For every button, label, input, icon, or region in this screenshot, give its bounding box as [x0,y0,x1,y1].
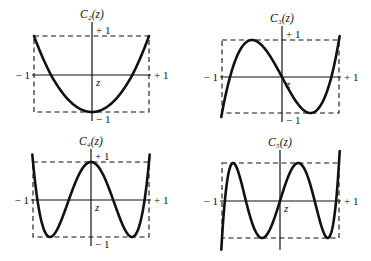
label-minus-one-x: − 1 [15,194,29,206]
label-minus-one-x: − 1 [204,71,218,83]
label-minus-one-x: − 1 [204,195,218,207]
label-plus-one-x: + 1 [344,195,358,207]
label-plus-one-x: + 1 [154,194,168,206]
panel-title: C₃(z) [270,12,294,25]
chebyshev-figure: C₂(z)− 1+ 1+ 1− 1zC₃(z)− 1+ 1+ 1− 1zC₄(z… [0,0,371,261]
label-plus-one-x: + 1 [344,71,358,83]
panel-c4: C₄(z)− 1+ 1+ 1− 1z [15,135,169,250]
label-z: z [95,76,101,88]
label-minus-one-y: − 1 [95,238,109,250]
label-plus-one-y: + 1 [95,150,109,162]
label-z: z [94,201,100,213]
label-z: z [285,78,291,90]
panel-c2: C₂(z)− 1+ 1+ 1− 1z [16,8,169,125]
label-z: z [283,202,289,214]
label-minus-one-y: − 1 [96,113,110,125]
label-plus-one-x: + 1 [154,69,168,81]
panel-title: C₂(z) [80,8,104,21]
label-minus-one-y: − 1 [286,114,300,126]
panel-title: C₅(z) [268,136,292,149]
panel-title: C₄(z) [79,135,103,148]
label-plus-one-y: + 1 [96,24,110,36]
label-plus-one-y: + 1 [286,28,300,40]
label-minus-one-x: − 1 [16,69,30,81]
panel-c5: C₅(z)− 1+ 1z [204,136,359,250]
panel-c3: C₃(z)− 1+ 1+ 1− 1z [204,12,359,126]
